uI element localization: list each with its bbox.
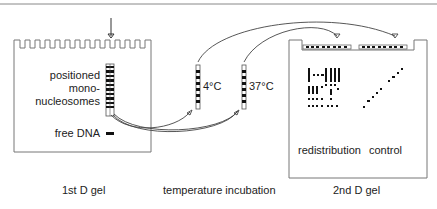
first-gel-band-label-3: nucleosomes xyxy=(35,95,100,108)
incubation-caption: temperature incubation xyxy=(163,184,276,197)
second-gel-caption: 2nd D gel xyxy=(333,184,380,197)
first-gel-caption: 1st D gel xyxy=(62,184,105,197)
loading-arrows-2nd xyxy=(198,22,398,62)
redistribution-label: redistribution xyxy=(298,144,361,157)
free-dna-band xyxy=(106,132,114,135)
first-gel-lane xyxy=(106,64,114,116)
second-gel-lane-right xyxy=(359,45,407,49)
free-dna-label: free DNA xyxy=(55,127,100,140)
control-spots xyxy=(363,68,403,108)
incubation-lane-37c xyxy=(242,65,246,109)
first-gel-band-label-2: mono- xyxy=(69,82,100,95)
redistribution-spots xyxy=(308,68,340,107)
control-label: control xyxy=(369,144,402,157)
second-gel-lane-left xyxy=(303,45,351,49)
lane-37c-label: 37°C xyxy=(249,80,274,93)
transfer-arrows xyxy=(111,110,239,132)
incubation-lane-4c xyxy=(196,65,200,109)
second-gel xyxy=(289,40,427,178)
loading-arrow-icon xyxy=(108,18,114,38)
lane-4c-label: 4°C xyxy=(203,80,221,93)
first-gel-band-label-1: positioned xyxy=(50,69,100,82)
